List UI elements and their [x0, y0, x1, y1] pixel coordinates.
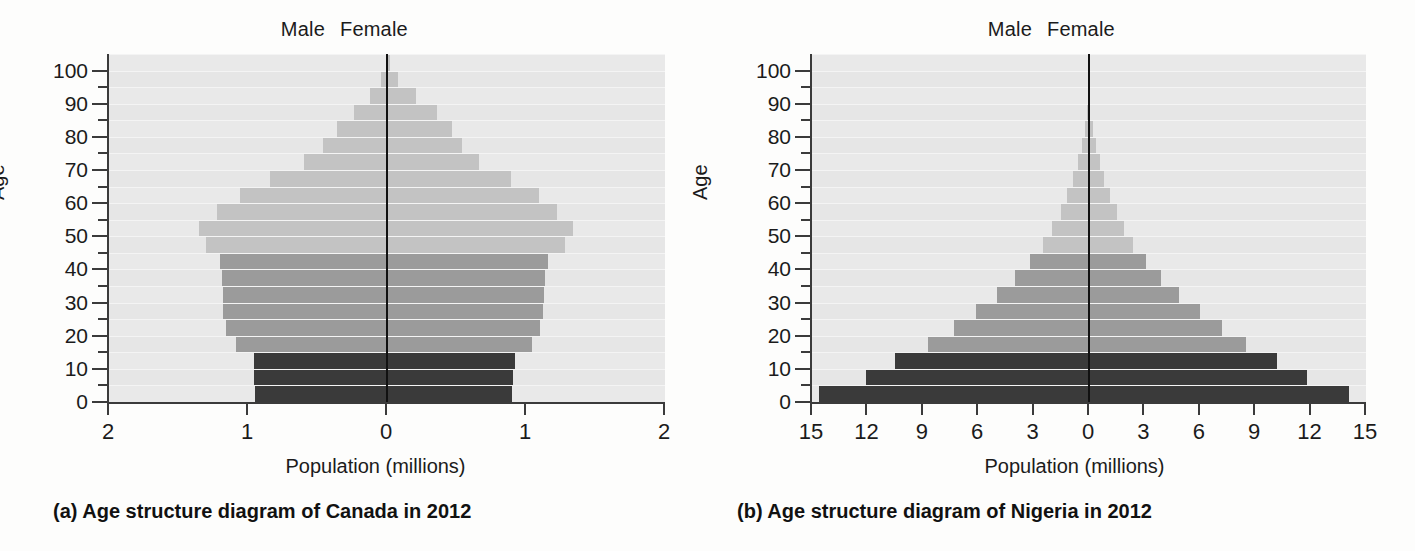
bar-female: [1089, 237, 1133, 253]
y-axis-tick-label: 100: [733, 59, 791, 83]
bar-male: [866, 370, 1089, 386]
y-axis-tick: [92, 136, 109, 138]
bar-female: [387, 270, 545, 286]
y-axis-tick: [795, 103, 812, 105]
bar-male: [1030, 254, 1089, 270]
x-axis-tick-label: 3: [1137, 419, 1149, 445]
bar-female: [387, 337, 532, 353]
bar-female: [387, 287, 544, 303]
bar-male: [254, 353, 387, 369]
bar-male: [976, 304, 1089, 320]
x-axis-tick-label: 2: [658, 419, 670, 445]
y-axis-tick-label: 40: [30, 257, 88, 281]
bar-male: [270, 171, 387, 187]
y-axis-tick: [801, 351, 812, 353]
x-axis-tick: [1032, 404, 1034, 415]
y-axis-tick: [92, 202, 109, 204]
bar-female: [1089, 386, 1349, 402]
x-axis-tick: [865, 404, 867, 415]
bar-female: [387, 370, 513, 386]
bar-male: [206, 237, 387, 253]
center-axis-line: [386, 54, 388, 402]
y-axis-title: Age: [0, 164, 9, 200]
y-axis-tick: [801, 119, 812, 121]
y-axis-tick: [801, 152, 812, 154]
y-axis-tick-label: 10: [30, 357, 88, 381]
plot-area-nigeria: [812, 54, 1366, 402]
y-axis-tick: [92, 268, 109, 270]
x-axis-tick: [921, 404, 923, 415]
y-axis-tick: [795, 335, 812, 337]
y-axis-title: Age: [689, 164, 712, 200]
bar-female: [387, 121, 452, 137]
bar-male: [255, 386, 387, 402]
y-axis-tick: [795, 401, 812, 403]
bar-male: [895, 353, 1089, 369]
x-axis-tick: [107, 404, 109, 415]
y-axis-tick: [801, 186, 812, 188]
bar-female: [387, 353, 515, 369]
y-axis-tick: [795, 70, 812, 72]
x-axis-tick: [1087, 404, 1089, 415]
bar-female: [1089, 304, 1200, 320]
y-axis-tick-label: 20: [30, 324, 88, 348]
y-axis-tick: [98, 351, 109, 353]
y-axis-tick-label: 10: [733, 357, 791, 381]
bar-female: [387, 304, 543, 320]
bar-female: [387, 254, 548, 270]
y-axis-tick-label: 60: [733, 191, 791, 215]
bar-male: [254, 370, 387, 386]
bar-male: [220, 254, 387, 270]
y-axis-tick: [92, 368, 109, 370]
bar-female: [387, 105, 437, 121]
bar-female: [1089, 221, 1124, 237]
bar-male: [323, 138, 387, 154]
y-axis-tick: [98, 384, 109, 386]
y-axis-tick-label: 30: [733, 291, 791, 315]
y-axis-tick-label: 100: [30, 59, 88, 83]
bar-female: [1089, 353, 1277, 369]
x-axis-tick-label: 15: [799, 419, 823, 445]
x-axis-tick: [663, 404, 665, 415]
y-axis-tick-label: 50: [733, 224, 791, 248]
bar-male: [1061, 204, 1089, 220]
y-axis-tick: [92, 335, 109, 337]
y-axis-tick: [92, 401, 109, 403]
x-axis-tick: [976, 404, 978, 415]
y-axis-tick: [98, 285, 109, 287]
male-label: Male: [281, 18, 325, 41]
bar-female: [1089, 287, 1179, 303]
x-axis-tick: [246, 404, 248, 415]
bar-male: [222, 270, 387, 286]
bar-male: [223, 287, 387, 303]
bar-female: [1089, 188, 1110, 204]
bar-female: [1089, 270, 1161, 286]
bar-female: [1089, 154, 1100, 170]
female-label: Female: [1047, 18, 1115, 41]
x-axis-tick: [1253, 404, 1255, 415]
x-axis-tick-label: 2: [102, 419, 114, 445]
gender-legend-nigeria: Male Female: [707, 18, 1414, 44]
y-axis-tick: [795, 302, 812, 304]
center-axis-line: [1088, 54, 1090, 402]
y-axis-tick-label: 40: [733, 257, 791, 281]
bar-female: [387, 171, 511, 187]
y-axis-tick: [92, 235, 109, 237]
bar-male: [1073, 171, 1089, 187]
y-axis-tick-label: 20: [733, 324, 791, 348]
bar-male: [199, 221, 387, 237]
y-axis-tick: [795, 268, 812, 270]
bar-female: [387, 320, 540, 336]
x-axis-title: Population (millions): [721, 455, 1415, 478]
male-label: Male: [988, 18, 1032, 41]
bar-male: [1052, 221, 1089, 237]
bar-female: [387, 88, 416, 104]
bar-female: [1089, 320, 1222, 336]
panel-canada: Male Female Age 0102030405060708090100 2…: [0, 0, 707, 551]
bar-male: [1015, 270, 1089, 286]
bar-male: [337, 121, 387, 137]
panel-nigeria: Male Female Age 0102030405060708090100 1…: [707, 0, 1414, 551]
y-axis-tick: [795, 136, 812, 138]
y-axis-tick-label: 50: [30, 224, 88, 248]
bar-male: [928, 337, 1089, 353]
